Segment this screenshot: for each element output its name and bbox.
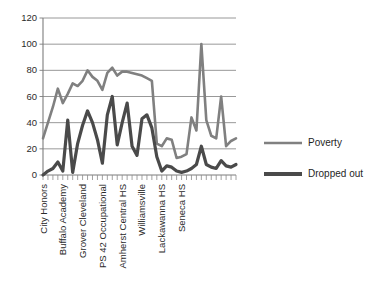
line-chart: 020406080100120 City HonorsBuffalo Acade…	[0, 0, 388, 291]
legend-label-dropped-out: Dropped out	[308, 168, 363, 179]
chart-legend: PovertyDropped out	[264, 137, 363, 179]
chart-container: 020406080100120 City HonorsBuffalo Acade…	[0, 0, 388, 291]
legend-label-poverty: Poverty	[308, 137, 342, 148]
x-axis-category-label: Seneca HS	[176, 184, 187, 232]
y-axis-tick-label: 100	[21, 38, 37, 49]
x-axis-category-label: Grover Cleveland	[77, 184, 88, 258]
x-axis-tick-labels: City HonorsBuffalo AcademyGrover Clevela…	[38, 184, 188, 269]
y-axis-tick-label: 40	[26, 117, 37, 128]
series-line-dropped-out	[43, 97, 236, 176]
y-axis-tick-label: 120	[21, 12, 37, 23]
x-axis-category-label: Williamsville	[136, 184, 147, 236]
y-axis-tick-labels: 020406080100120	[21, 12, 37, 180]
series-group	[43, 44, 236, 175]
x-axis-category-label: Amherst Central HS	[117, 184, 128, 268]
y-axis-tick-label: 80	[26, 64, 37, 75]
y-axis-tick-label: 0	[32, 169, 37, 180]
x-axis-category-label: Lackawanna HS	[156, 184, 167, 253]
y-axis-tick-label: 20	[26, 143, 37, 154]
x-axis-ticks	[43, 175, 236, 180]
y-axis-tick-label: 60	[26, 91, 37, 102]
x-axis-category-label: Buffalo Academy	[57, 184, 68, 255]
x-axis-category-label: PS 42 Occupational	[97, 184, 108, 268]
x-axis-category-label: City Honors	[38, 184, 49, 234]
